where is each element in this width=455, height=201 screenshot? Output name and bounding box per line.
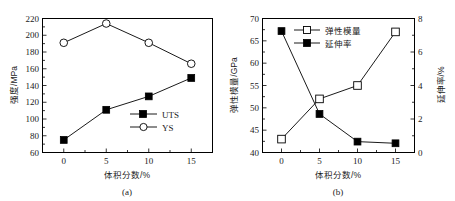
- y-tick-label-right: 6: [418, 47, 423, 57]
- series-line-YS: [64, 24, 192, 64]
- chart-b-svg: 40455055606570 02468 051015 弹性模量 延伸率 弹性模…: [228, 0, 455, 201]
- data-point: [278, 135, 286, 143]
- figure-container: 6080100120140160180200220 051015 UTS YS …: [0, 0, 455, 201]
- x-tick-label: 0: [279, 156, 284, 166]
- y-tick-label: 80: [30, 131, 40, 141]
- legend-marker-ys: [140, 123, 147, 130]
- data-point: [392, 28, 400, 36]
- legend-label-uts: UTS: [162, 110, 179, 120]
- legend-label-modulus: 弹性模量: [325, 26, 361, 36]
- x-tick-label: 5: [104, 156, 109, 166]
- legend-marker-uts: [140, 111, 147, 118]
- panel-caption-a: (a): [122, 187, 132, 197]
- data-point: [354, 82, 362, 90]
- y-tick-label-right: 0: [418, 148, 423, 158]
- y-tick-label: 60: [250, 58, 260, 68]
- y-tick-label: 180: [26, 47, 40, 57]
- y-axis-title-b-left: 弹性模量/GPa: [229, 57, 239, 113]
- y-tick-label: 45: [250, 125, 260, 135]
- chart-panel-b: 40455055606570 02468 051015 弹性模量 延伸率 弹性模…: [228, 0, 455, 201]
- x-tick-label: 15: [187, 156, 197, 166]
- data-point: [392, 140, 399, 147]
- y-axis-ticks-b-right: 02468: [411, 14, 424, 158]
- data-point: [354, 138, 361, 145]
- y-tick-label: 70: [250, 14, 260, 24]
- y-tick-label: 65: [250, 36, 260, 46]
- panel-caption-b: (b): [333, 187, 344, 197]
- y-tick-label: 160: [26, 64, 40, 74]
- y-tick-label-right: 4: [418, 81, 423, 91]
- data-point: [60, 39, 68, 47]
- y-axis-ticks-b-left: 40455055606570: [250, 14, 267, 158]
- x-tick-label: 0: [62, 156, 67, 166]
- x-axis-ticks-b: 051015: [279, 149, 400, 166]
- data-point: [316, 111, 323, 118]
- chart-a-svg: 6080100120140160180200220 051015 UTS YS …: [0, 0, 228, 201]
- y-axis-title-a: 强度/MPa: [9, 66, 19, 104]
- legend-label-ys: YS: [162, 123, 174, 133]
- data-point: [145, 39, 153, 47]
- x-tick-label: 10: [353, 156, 363, 166]
- y-tick-label: 200: [26, 30, 40, 40]
- plot-frame-a: [43, 19, 213, 153]
- x-axis-title-b: 体积分数/%: [315, 170, 361, 180]
- y-tick-label-right: 8: [418, 14, 423, 24]
- data-point: [187, 60, 195, 68]
- x-axis-ticks-a: 051015: [62, 149, 197, 166]
- y-axis-ticks-a: 6080100120140160180200220: [26, 14, 47, 158]
- y-tick-label: 100: [26, 114, 40, 124]
- legend-b: 弹性模量 延伸率: [294, 26, 361, 49]
- legend-a: UTS YS: [130, 110, 179, 133]
- y-tick-label: 40: [250, 148, 260, 158]
- y-tick-label: 120: [26, 97, 40, 107]
- data-series-group-a: [60, 20, 195, 144]
- legend-marker-modulus: [304, 27, 311, 34]
- data-point: [145, 93, 152, 100]
- legend-label-elongation: 延伸率: [325, 39, 352, 49]
- y-tick-label: 60: [30, 148, 40, 158]
- x-tick-label: 15: [391, 156, 401, 166]
- x-tick-label: 10: [144, 156, 154, 166]
- y-tick-label: 220: [26, 14, 40, 24]
- data-point: [316, 95, 324, 103]
- chart-panel-a: 6080100120140160180200220 051015 UTS YS …: [0, 0, 228, 201]
- data-point: [188, 75, 195, 82]
- x-axis-title-a: 体积分数/%: [104, 170, 150, 180]
- data-point: [278, 28, 285, 35]
- y-tick-label-right: 2: [418, 114, 423, 124]
- y-tick-label: 50: [250, 103, 260, 113]
- y-tick-label: 55: [250, 81, 260, 91]
- legend-marker-elongation: [304, 40, 311, 47]
- data-point: [103, 106, 110, 113]
- data-point: [60, 137, 67, 144]
- y-axis-title-b-right: 延伸率/%: [436, 66, 446, 103]
- x-tick-label: 5: [317, 156, 322, 166]
- y-tick-label: 140: [26, 81, 40, 91]
- data-point: [102, 20, 110, 28]
